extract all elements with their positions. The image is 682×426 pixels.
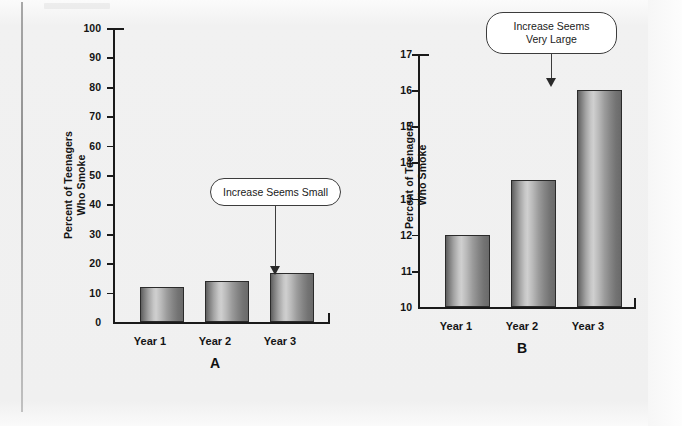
panel-a-tick-20	[107, 263, 113, 265]
panel-a-xlabel-year-3: Year 3	[245, 335, 315, 347]
panel-a-tick-60	[107, 146, 113, 148]
panel-a-ticklabel-0: 0	[55, 316, 101, 328]
panel-b-x-axis-end-cap	[634, 298, 636, 309]
panel-a-xlabel-year-1: Year 1	[115, 335, 185, 347]
panel-b: Percent of Teenagers Who Smoke 17 16 15 …	[341, 0, 682, 426]
panel-b-tick-12	[412, 235, 418, 237]
panel-a-ticklabel-60: 60	[55, 140, 101, 152]
panel-a-bar-year-3[interactable]	[270, 273, 314, 322]
panel-a-tick-80	[107, 87, 113, 89]
panel-a-callout: Increase Seems Small	[210, 178, 341, 206]
panel-b-tick-14	[412, 162, 418, 164]
panel-a-callout-leader-line	[275, 206, 276, 269]
panel-b-callout: Increase Seems Very Large	[486, 12, 617, 54]
panel-a-plot-area: 100 90 80 70 60 50 40 30 20 10 0	[113, 28, 330, 324]
panel-b-ticklabel-10: 10	[366, 301, 412, 313]
panel-b-ticklabel-12: 12	[366, 229, 412, 241]
panel-a-y-axis-top-cap	[113, 28, 124, 30]
panel-a-tick-70	[107, 116, 113, 118]
panel-b-tick-13	[412, 199, 418, 201]
panel-b-xlabel-year-3: Year 3	[553, 320, 623, 332]
panel-a-ticklabel-30: 30	[55, 228, 101, 240]
panel-a-ticklabel-10: 10	[55, 287, 101, 299]
panel-a-ticklabel-80: 80	[55, 81, 101, 93]
panel-a-tick-30	[107, 234, 113, 236]
panel-a-letter: A	[180, 355, 250, 371]
panel-b-bar-year-3[interactable]	[577, 90, 622, 307]
panel-a-ticklabel-40: 40	[55, 198, 101, 210]
panel-b-callout-arrowhead	[546, 78, 556, 87]
panel-b-tick-11	[412, 271, 418, 273]
panel-a-tick-50	[107, 175, 113, 177]
panel-b-ticklabel-15: 15	[366, 120, 412, 132]
panel-a-ticklabel-100: 100	[55, 22, 101, 34]
panel-b-callout-leader-line	[551, 54, 552, 80]
panel-a-ticklabel-90: 90	[55, 51, 101, 63]
panel-a-tick-100	[107, 28, 113, 30]
figure-two-bar-charts: Percent of Teenagers Who Smoke 100 90 80…	[0, 0, 682, 426]
panel-a-xlabel-year-2: Year 2	[180, 335, 250, 347]
panel-a-ticklabel-20: 20	[55, 257, 101, 269]
panel-b-ticklabel-14: 14	[366, 156, 412, 168]
panel-a-y-axis-line	[113, 28, 115, 324]
panel-b-tick-15	[412, 126, 418, 128]
panel-a-x-axis-end-cap	[328, 313, 330, 324]
panel-b-bar-year-1[interactable]	[445, 235, 490, 307]
panel-b-ticklabel-13: 13	[366, 193, 412, 205]
panel-a-tick-90	[107, 57, 113, 59]
panel-b-tick-17	[412, 54, 418, 56]
panel-a-callout-arrowhead	[270, 266, 280, 275]
panel-a-tick-10	[107, 293, 113, 295]
panel-b-xlabel-year-2: Year 2	[487, 320, 557, 332]
panel-b-ticklabel-17: 17	[366, 48, 412, 60]
panel-b-ticklabel-16: 16	[366, 84, 412, 96]
panel-a-ticklabel-50: 50	[55, 169, 101, 181]
panel-b-xlabel-year-1: Year 1	[421, 320, 491, 332]
panel-b-ticklabel-11: 11	[366, 265, 412, 277]
panel-b-y-axis-line	[418, 54, 420, 309]
panel-b-plot-area: 17 16 15 14 13 12 11 10	[418, 54, 636, 309]
panel-b-bar-year-2[interactable]	[511, 180, 556, 307]
panel-b-x-axis-line	[418, 307, 636, 309]
panel-b-y-axis-top-cap	[418, 54, 429, 56]
panel-a: Percent of Teenagers Who Smoke 100 90 80…	[0, 0, 341, 426]
panel-b-tick-16	[412, 90, 418, 92]
panel-a-tick-40	[107, 204, 113, 206]
panel-b-letter: B	[487, 340, 557, 356]
panel-a-x-axis-line	[113, 322, 330, 324]
panel-a-bar-year-1[interactable]	[140, 287, 184, 322]
panel-a-bar-year-2[interactable]	[205, 281, 249, 322]
panel-a-ticklabel-70: 70	[55, 110, 101, 122]
